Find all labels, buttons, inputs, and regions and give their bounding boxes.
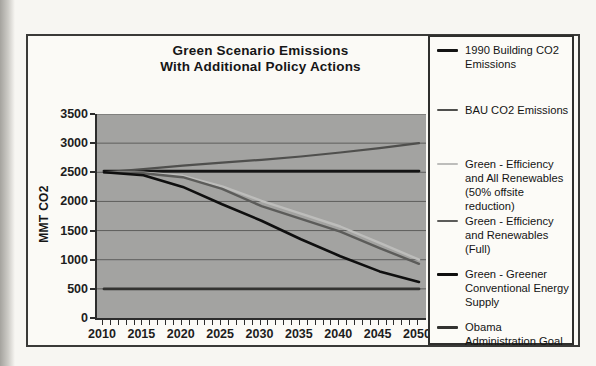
x-tick-mark-2030 — [260, 320, 261, 325]
chart-title-line1: Green Scenario Emissions — [73, 43, 448, 59]
x-tick-mark-2049 — [409, 320, 410, 325]
x-tick-mark-2050 — [417, 320, 418, 325]
legend-label-5: Obama Administration Goal — [465, 320, 569, 348]
legend-entry-3: Green - Efficiency and Renewables (Full) — [437, 214, 569, 256]
x-tick-label-2025: 2025 — [198, 327, 242, 342]
x-tick-mark-2013 — [126, 320, 127, 325]
legend-label-1: BAU CO2 Emissions — [465, 103, 568, 117]
y-tick-label-2000: 2000 — [44, 193, 88, 209]
x-tick-mark-2021 — [189, 320, 190, 325]
chart-title-line2: With Additional Policy Actions — [73, 59, 448, 75]
x-tick-mark-2046 — [386, 320, 387, 325]
scan-shadow — [0, 0, 15, 366]
x-tick-mark-2012 — [118, 320, 119, 325]
y-tick-label-3500: 3500 — [44, 106, 88, 122]
x-tick-label-2040: 2040 — [316, 327, 360, 342]
x-tick-mark-2041 — [346, 320, 347, 325]
x-tick-mark-2033 — [283, 320, 284, 325]
plot-lines-svg — [97, 114, 426, 318]
plot-area — [95, 114, 426, 320]
x-tick-label-2030: 2030 — [238, 327, 282, 342]
x-tick-mark-2015 — [141, 320, 142, 325]
x-tick-mark-2038 — [323, 320, 324, 325]
x-tick-mark-2047 — [393, 320, 394, 325]
legend-entry-2: Green - Efficiency and All Renewables (5… — [437, 157, 569, 213]
chart-frame: Green Scenario Emissions With Additional… — [26, 34, 580, 347]
x-tick-mark-2034 — [291, 320, 292, 325]
x-tick-mark-2019 — [173, 320, 174, 325]
legend-swatch-1 — [437, 109, 458, 111]
series-line-1 — [104, 143, 419, 172]
series-line-2 — [104, 172, 419, 259]
y-tick-label-3000: 3000 — [44, 135, 88, 151]
x-tick-mark-2025 — [220, 320, 221, 325]
x-tick-mark-2043 — [362, 320, 363, 325]
legend: 1990 Building CO2 EmissionsBAU CO2 Emiss… — [428, 35, 574, 345]
legend-swatch-3 — [437, 220, 458, 222]
legend-swatch-2 — [437, 163, 458, 165]
x-tick-mark-2016 — [149, 320, 150, 325]
legend-entry-5: Obama Administration Goal — [437, 320, 569, 348]
y-tick-label-500: 500 — [44, 281, 88, 297]
legend-label-0: 1990 Building CO2 Emissions — [465, 43, 569, 71]
legend-swatch-5 — [437, 326, 458, 329]
legend-label-2: Green - Efficiency and All Renewables (5… — [465, 157, 569, 213]
x-tick-mark-2011 — [110, 320, 111, 325]
x-tick-mark-2020 — [181, 320, 182, 325]
x-tick-mark-2039 — [330, 320, 331, 325]
x-tick-mark-2048 — [401, 320, 402, 325]
x-tick-mark-2027 — [236, 320, 237, 325]
x-tick-mark-2040 — [338, 320, 339, 325]
legend-entry-1: BAU CO2 Emissions — [437, 103, 569, 117]
x-tick-mark-2024 — [212, 320, 213, 325]
series-line-4 — [104, 172, 419, 282]
x-tick-label-2010: 2010 — [80, 327, 124, 342]
legend-label-3: Green - Efficiency and Renewables (Full) — [465, 214, 569, 256]
legend-swatch-0 — [437, 49, 458, 52]
y-tick-label-0: 0 — [44, 310, 88, 326]
x-tick-label-2045: 2045 — [356, 327, 400, 342]
chart-title: Green Scenario Emissions With Additional… — [73, 43, 448, 75]
x-tick-mark-2036 — [307, 320, 308, 325]
x-tick-mark-2035 — [299, 320, 300, 325]
x-tick-mark-2010 — [102, 320, 103, 325]
y-tick-label-2500: 2500 — [44, 164, 88, 180]
x-tick-label-2035: 2035 — [277, 327, 321, 342]
x-tick-mark-2028 — [244, 320, 245, 325]
x-tick-mark-2014 — [134, 320, 135, 325]
x-tick-mark-2026 — [228, 320, 229, 325]
series-line-3 — [104, 172, 419, 263]
x-tick-mark-2029 — [252, 320, 253, 325]
legend-swatch-4 — [437, 273, 458, 276]
x-tick-mark-2044 — [370, 320, 371, 325]
x-tick-mark-2031 — [267, 320, 268, 325]
x-tick-mark-2022 — [197, 320, 198, 325]
y-tick-label-1000: 1000 — [44, 252, 88, 268]
x-tick-mark-2042 — [354, 320, 355, 325]
x-tick-label-2015: 2015 — [119, 327, 163, 342]
legend-entry-4: Green - Greener Conventional Energy Supp… — [437, 267, 569, 309]
legend-entry-0: 1990 Building CO2 Emissions — [437, 43, 569, 71]
x-tick-mark-2023 — [204, 320, 205, 325]
x-tick-label-2020: 2020 — [159, 327, 203, 342]
x-tick-mark-2017 — [157, 320, 158, 325]
x-tick-mark-2045 — [378, 320, 379, 325]
x-tick-mark-2037 — [315, 320, 316, 325]
legend-label-4: Green - Greener Conventional Energy Supp… — [465, 267, 569, 309]
y-tick-label-1500: 1500 — [44, 223, 88, 239]
x-tick-mark-2032 — [275, 320, 276, 325]
x-tick-mark-2018 — [165, 320, 166, 325]
